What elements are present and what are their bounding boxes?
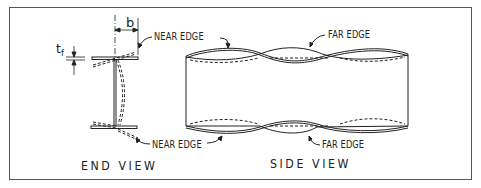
beam-diagram [0, 0, 481, 188]
dimension-tf-label: tf [56, 42, 64, 58]
side-view-title: SIDE VIEW [270, 156, 351, 171]
end-view-title: END VIEW [81, 158, 157, 173]
tf-subscript: f [61, 49, 64, 58]
dimension-b-label: b [126, 15, 134, 30]
end-view-near-edge-top-label: NEAR EDGE [154, 31, 204, 42]
side-view-far-edge-top-label: FAR EDGE [328, 29, 370, 40]
end-view-ibeam [66, 15, 152, 144]
side-view-far-edge-bottom-label: FAR EDGE [322, 139, 364, 150]
side-view-beam [186, 35, 408, 145]
end-view-near-edge-bottom-label: NEAR EDGE [152, 139, 202, 150]
